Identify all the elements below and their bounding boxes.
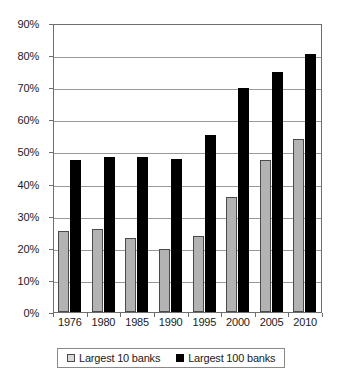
y-axis-tick-mark	[49, 56, 53, 57]
legend-swatch-icon	[67, 354, 75, 362]
y-axis-tick-label: 90%	[18, 18, 39, 30]
bar-group	[222, 25, 256, 312]
bar	[293, 139, 304, 312]
y-axis-tick-mark	[49, 88, 53, 89]
y-axis-tick-mark	[49, 217, 53, 218]
x-axis-tick-mark	[288, 313, 289, 317]
x-axis-tick-mark	[188, 313, 189, 317]
y-axis-tick-mark	[49, 249, 53, 250]
bar-group	[121, 25, 155, 312]
x-axis-tick-label: 1990	[159, 316, 183, 328]
bar	[58, 231, 69, 312]
x-axis-tick-mark	[154, 313, 155, 317]
legend-item[interactable]: Largest 10 banks	[67, 352, 160, 364]
bar	[205, 135, 216, 312]
legend-swatch-icon	[176, 354, 184, 362]
y-axis-tick-label: 10%	[18, 275, 39, 287]
bar	[92, 229, 103, 312]
x-axis-tick-label: 2000	[226, 316, 250, 328]
y-axis-tick-mark	[49, 120, 53, 121]
y-axis-tick-mark	[49, 152, 53, 153]
bar	[260, 160, 271, 312]
legend-item[interactable]: Largest 100 banks	[176, 352, 275, 364]
x-axis-tick-label: 2010	[293, 316, 317, 328]
y-axis-tick-label: 80%	[18, 50, 39, 62]
bar	[305, 54, 316, 312]
chart-legend: Largest 10 banksLargest 100 banks	[57, 348, 285, 368]
bar	[193, 236, 204, 312]
bar-group	[256, 25, 290, 312]
bar-group	[289, 25, 323, 312]
bar	[70, 160, 81, 312]
x-axis-tick-label: 1985	[125, 316, 149, 328]
bank-concentration-bar-chart: 0%10%20%30%40%50%60%70%80%90% 1976198019…	[0, 0, 339, 375]
x-axis-tick-mark	[120, 313, 121, 317]
y-axis-tick-label: 70%	[18, 82, 39, 94]
legend-item-label: Largest 100 banks	[188, 352, 275, 364]
bar-group	[54, 25, 88, 312]
bar	[272, 72, 283, 312]
y-axis-tick-label: 0%	[24, 307, 40, 319]
bar	[125, 238, 136, 312]
bar	[137, 157, 148, 312]
y-axis-tick-label: 40%	[18, 179, 39, 191]
y-axis-tick-label: 20%	[18, 243, 39, 255]
x-axis-tick-label: 1995	[192, 316, 216, 328]
y-axis-tick-mark	[49, 281, 53, 282]
bar	[238, 88, 249, 312]
bar	[104, 157, 115, 312]
y-axis: 0%10%20%30%40%50%60%70%80%90%	[0, 24, 46, 313]
x-axis-tick-mark	[87, 313, 88, 317]
legend-item-label: Largest 10 banks	[79, 352, 160, 364]
x-axis-tick-label: 2005	[260, 316, 284, 328]
y-axis-tick-label: 30%	[18, 211, 39, 223]
y-axis-tick-label: 50%	[18, 146, 39, 158]
y-axis-tick-mark	[49, 185, 53, 186]
bar-group	[155, 25, 189, 312]
y-axis-tick-label: 60%	[18, 114, 39, 126]
bar-group	[189, 25, 223, 312]
x-axis-tick-mark	[221, 313, 222, 317]
x-axis-tick-mark	[322, 313, 323, 317]
bar	[226, 197, 237, 312]
x-axis: 19761980198519901995200020052010	[53, 316, 322, 334]
x-axis-tick-label: 1976	[58, 316, 82, 328]
x-axis-tick-label: 1980	[92, 316, 116, 328]
y-axis-tick-mark	[49, 24, 53, 25]
bar	[171, 159, 182, 312]
plot-area	[53, 24, 322, 313]
bar-group	[88, 25, 122, 312]
bar	[159, 249, 170, 312]
x-axis-tick-mark	[255, 313, 256, 317]
x-axis-tick-mark	[53, 313, 54, 317]
